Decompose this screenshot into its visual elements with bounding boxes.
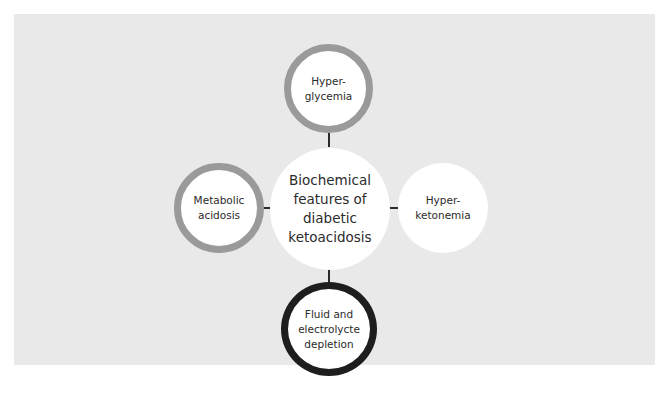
center-node-label: Biochemical features of diabetic ketoaci… [288,171,371,247]
node-fluid-electrolyte-depletion: Fluid and electrolycte depletion [281,282,377,376]
node-hyperketonemia-label: Hyper- ketonemia [415,193,470,223]
connector-top [328,133,330,147]
node-fluid-electrolyte-depletion-label: Fluid and electrolycte depletion [298,307,360,352]
node-hyperglycemia-label: Hyper- glycemia [305,74,353,104]
center-node: Biochemical features of diabetic ketoaci… [270,148,390,270]
node-hyperglycemia: Hyper- glycemia [284,44,373,133]
node-metabolic-acidosis-label: Metabolic acidosis [194,193,245,223]
connector-right [389,207,398,209]
node-hyperketonemia: Hyper- ketonemia [398,163,488,253]
node-metabolic-acidosis: Metabolic acidosis [174,163,264,253]
